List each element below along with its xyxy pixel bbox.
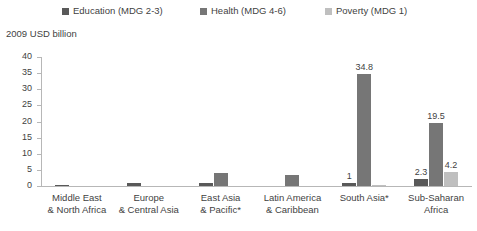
bar-education[interactable]: [55, 185, 69, 186]
category-label-line: South Asia*: [328, 192, 400, 204]
bar-education[interactable]: [414, 179, 428, 186]
bar-education[interactable]: [127, 183, 141, 186]
category-label-line: & Caribbean: [257, 204, 329, 216]
bar-education[interactable]: [342, 183, 356, 186]
y-axis-tick-label: 15: [0, 133, 32, 142]
bar-group: [185, 57, 257, 186]
category-label-line: & Pacific*: [185, 204, 257, 216]
legend-label-health: Health (MDG 4-6): [211, 3, 286, 19]
legend-swatch-education: [62, 8, 69, 15]
bar-value-label: 2.3: [415, 168, 428, 177]
category-label-line: Middle East: [41, 192, 113, 204]
category-label-line: & North Africa: [41, 204, 113, 216]
legend-item-poverty[interactable]: Poverty (MDG 1): [325, 3, 407, 19]
bar-health[interactable]: [357, 74, 371, 186]
category-label-line: Europe: [113, 192, 185, 204]
bar-health[interactable]: [429, 123, 443, 186]
bar-poverty[interactable]: [372, 185, 386, 186]
bar-value-label: 34.8: [355, 63, 373, 72]
x-axis-category-label: Latin America& Caribbean: [257, 192, 329, 216]
y-axis-tick-label: 40: [0, 52, 32, 61]
legend-swatch-health: [200, 8, 207, 15]
legend-swatch-poverty: [325, 8, 332, 15]
bar-poverty[interactable]: [444, 172, 458, 186]
y-axis-tick-label: 10: [0, 149, 32, 158]
y-axis-tick-label: 0: [0, 181, 32, 190]
bar-value-label: 4.2: [445, 161, 458, 170]
y-axis-tick-label: 5: [0, 165, 32, 174]
y-axis-tick-label: 20: [0, 117, 32, 126]
x-axis-category-label: Europe& Central Asia: [113, 192, 185, 216]
bar-group: [41, 57, 113, 186]
category-label-line: & Central Asia: [113, 204, 185, 216]
bar-value-label: 19.5: [427, 112, 445, 121]
category-label-line: Sub-Saharan: [400, 192, 472, 204]
y-axis-tick: [37, 186, 41, 187]
bar-group: [113, 57, 185, 186]
x-axis-line: [41, 186, 472, 187]
bar-health[interactable]: [214, 173, 228, 186]
category-label-line: Africa: [400, 204, 472, 216]
bar-group: 2.319.54.2: [400, 57, 472, 186]
category-label-line: East Asia: [185, 192, 257, 204]
category-label-line: Latin America: [257, 192, 329, 204]
y-axis-title: 2009 USD billion: [6, 28, 77, 39]
plot-area: 134.82.319.54.2: [41, 57, 472, 186]
y-axis-tick-label: 25: [0, 100, 32, 109]
bar-value-label: 1: [347, 172, 352, 181]
x-axis-category-label: East Asia& Pacific*: [185, 192, 257, 216]
legend-item-health[interactable]: Health (MDG 4-6): [200, 3, 286, 19]
bar-group: 134.8: [328, 57, 400, 186]
chart-legend: Education (MDG 2-3) Health (MDG 4-6) Pov…: [0, 3, 477, 19]
legend-item-education[interactable]: Education (MDG 2-3): [62, 3, 163, 19]
y-axis-tick-label: 30: [0, 84, 32, 93]
legend-label-education: Education (MDG 2-3): [73, 3, 163, 19]
legend-label-poverty: Poverty (MDG 1): [336, 3, 407, 19]
x-axis-category-label: South Asia*: [328, 192, 400, 204]
bar-group: [257, 57, 329, 186]
x-axis-category-label: Middle East& North Africa: [41, 192, 113, 216]
y-axis-tick-label: 35: [0, 68, 32, 77]
bar-health[interactable]: [285, 175, 299, 186]
bar-education[interactable]: [199, 183, 213, 186]
x-axis-category-label: Sub-SaharanAfrica: [400, 192, 472, 216]
bar-chart: Education (MDG 2-3) Health (MDG 4-6) Pov…: [0, 0, 477, 231]
